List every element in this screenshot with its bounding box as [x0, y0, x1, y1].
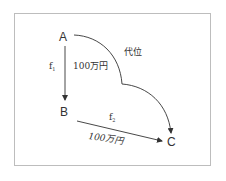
- edge-a-to-c-label: 代位: [124, 48, 142, 57]
- edge-a-to-c-curve: [74, 35, 171, 133]
- node-b: B: [60, 106, 68, 118]
- diagram-canvas: [0, 0, 226, 181]
- node-a: A: [59, 31, 67, 43]
- edge-b-to-c-name: f2: [109, 113, 116, 123]
- edge-a-to-b-name: f1: [49, 62, 56, 72]
- edge-a-to-b-subscript: 1: [52, 66, 55, 72]
- edge-a-to-b-amount: 100万円: [73, 62, 108, 71]
- node-c: C: [167, 136, 176, 148]
- edge-b-to-c-subscript: 2: [112, 117, 115, 123]
